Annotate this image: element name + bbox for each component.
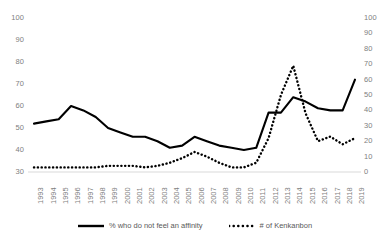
- plot-area: [0, 0, 390, 237]
- series-line-kenkanbon: [34, 66, 355, 168]
- legend-swatch-solid: [78, 222, 104, 230]
- legend-swatch-dotted: [229, 222, 255, 230]
- legend-label-affinity: % who do not feel an affinity: [109, 222, 203, 230]
- legend-item-kenkanbon: # of Kenkanbon: [229, 222, 313, 230]
- legend-item-affinity: % who do not feel an affinity: [78, 222, 203, 230]
- legend-label-kenkanbon: # of Kenkanbon: [260, 222, 313, 230]
- chart-container: 30405060708090100 0102030405060708090100…: [0, 0, 390, 237]
- chart-legend: % who do not feel an affinity # of Kenka…: [0, 218, 390, 234]
